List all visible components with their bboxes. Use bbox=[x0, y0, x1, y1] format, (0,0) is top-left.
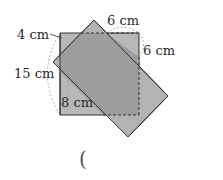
brace-top-6cm bbox=[106, 28, 139, 34]
answer-paren: ( bbox=[79, 147, 87, 171]
label-left: 15 cm bbox=[14, 66, 54, 81]
label-right: 6 cm bbox=[143, 43, 175, 58]
label-top: 6 cm bbox=[107, 13, 139, 28]
label-inner-left: 8 cm bbox=[61, 95, 93, 110]
geometry-figure: 6 cm 4 cm 6 cm 15 cm 8 cm ( bbox=[0, 0, 223, 180]
label-top-left: 4 cm bbox=[17, 27, 49, 42]
